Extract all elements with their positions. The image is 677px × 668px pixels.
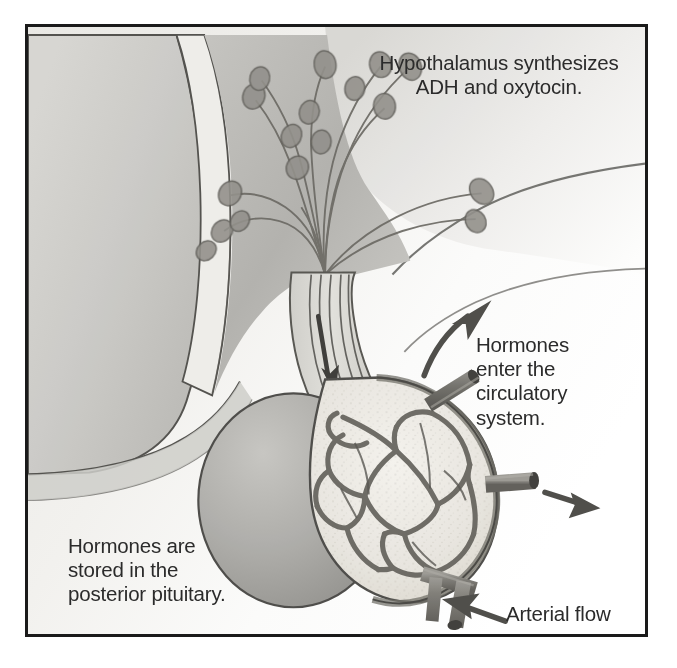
label-hypothalamus-synthesis: Hypothalamus synthesizes ADH and oxytoci… bbox=[365, 51, 633, 99]
figure-root: Hypothalamus synthesizes ADH and oxytoci… bbox=[0, 0, 677, 668]
label-hormones-stored: Hormones are stored in the posterior pit… bbox=[68, 534, 308, 607]
figure-frame: Hypothalamus synthesizes ADH and oxytoci… bbox=[25, 24, 648, 637]
label-arterial-flow: Arterial flow bbox=[506, 602, 648, 626]
label-hormones-enter-circulation: Hormones enter the circulatory system. bbox=[476, 333, 646, 430]
